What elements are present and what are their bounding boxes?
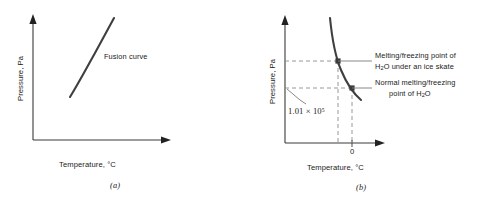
h2o-suffix-top: O under an ice skate (384, 62, 454, 71)
panel-b-x-axis-arrow (375, 139, 385, 146)
panel-b-x-tick-label-zero: 0 (350, 147, 354, 157)
pressure-value-exponent: 5 (322, 107, 325, 113)
panel-b-x-axis-label: Temperature, °C (307, 163, 364, 173)
h2o-prefix-bottom: point of H (389, 89, 422, 98)
panel-a-x-axis-arrow (161, 136, 171, 143)
panel-a-caption: (a) (110, 180, 120, 191)
annotation-normal-line1: Normal melting/freezing (375, 78, 455, 89)
panel-b-leader-pressure-value (287, 89, 306, 104)
panel-b-caption: (b) (356, 182, 366, 193)
panel-a-y-axis-arrow (29, 14, 36, 24)
panel-b-graphics (281, 15, 385, 147)
panel-a-x-axis-label: Temperature, °C (59, 160, 116, 170)
phase-diagram-figure: Pressure, Pa Temperature, °C Fusion curv… (0, 0, 487, 198)
panel-a-curve-label: Fusion curve (104, 52, 148, 62)
panel-b-pressure-value-label: 1.01 × 105 (288, 106, 325, 118)
panel-b-annotation-ice-skate: Melting/freezing point of H2O under an i… (375, 51, 456, 73)
pressure-value-mantissa: 1.01 × 10 (288, 106, 322, 116)
annotation-normal-line2: point of H2O (375, 89, 455, 100)
h2o-suffix-bottom: O (425, 89, 431, 98)
panel-b-annotation-normal-point: Normal melting/freezing point of H2O (375, 78, 455, 100)
panel-b-y-axis-arrow (281, 15, 288, 25)
annotation-ice-skate-line1: Melting/freezing point of (375, 51, 456, 62)
annotation-ice-skate-line2: H2O under an ice skate (375, 62, 456, 73)
panel-a-graphics (29, 14, 171, 144)
panel-b-y-axis-label: Pressure, Pa (268, 59, 278, 104)
panel-a-y-axis-label: Pressure, Pa (16, 56, 26, 101)
